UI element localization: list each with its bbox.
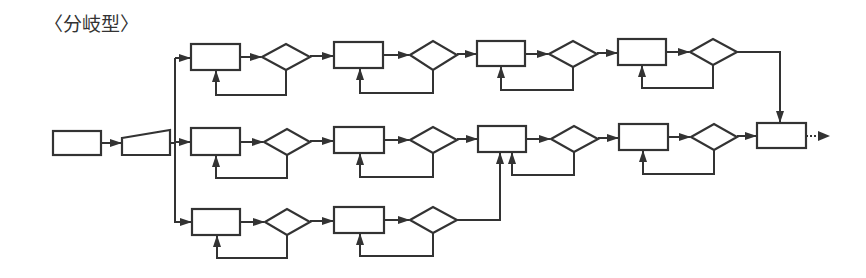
flowchart-canvas bbox=[0, 0, 866, 278]
decision-diamond bbox=[690, 39, 737, 65]
middle-branch bbox=[191, 124, 756, 178]
feedback-loop bbox=[643, 150, 714, 174]
process-box bbox=[191, 128, 240, 155]
process-box bbox=[477, 41, 525, 66]
process-box bbox=[618, 39, 666, 65]
decision-diamond bbox=[265, 209, 310, 235]
process-box bbox=[192, 209, 240, 235]
feedback-loop bbox=[217, 235, 287, 258]
start-process-box bbox=[53, 131, 101, 155]
process-box bbox=[334, 42, 383, 68]
decision-diamond bbox=[410, 207, 457, 233]
feedback-loop bbox=[216, 155, 287, 178]
process-box bbox=[191, 44, 240, 70]
decision-diamond bbox=[551, 126, 598, 152]
decision-diamond bbox=[691, 124, 737, 150]
feedback-loop bbox=[642, 65, 713, 88]
feedback-loop bbox=[360, 153, 433, 177]
decision-diamond bbox=[262, 44, 310, 70]
decision-diamond bbox=[410, 127, 457, 153]
feedback-loop bbox=[512, 152, 574, 175]
manual-input-trapezoid bbox=[122, 130, 170, 155]
feedback-loop bbox=[360, 233, 433, 256]
merge-box bbox=[757, 123, 806, 148]
process-box bbox=[334, 127, 384, 153]
top-exit-to-merge bbox=[737, 52, 780, 122]
feedback-loop bbox=[216, 70, 286, 95]
decision-diamond bbox=[264, 129, 310, 155]
top-branch bbox=[191, 39, 780, 122]
decision-diamond bbox=[410, 41, 457, 70]
process-box bbox=[334, 207, 384, 233]
output-arrowhead bbox=[818, 131, 830, 141]
bottom-branch bbox=[192, 153, 500, 258]
process-box bbox=[619, 124, 668, 150]
decision-diamond bbox=[549, 41, 597, 67]
bottom-exit-to-middle bbox=[457, 153, 500, 220]
feedback-loop bbox=[360, 69, 433, 93]
feedback-loop bbox=[501, 67, 573, 90]
process-box bbox=[478, 126, 526, 152]
